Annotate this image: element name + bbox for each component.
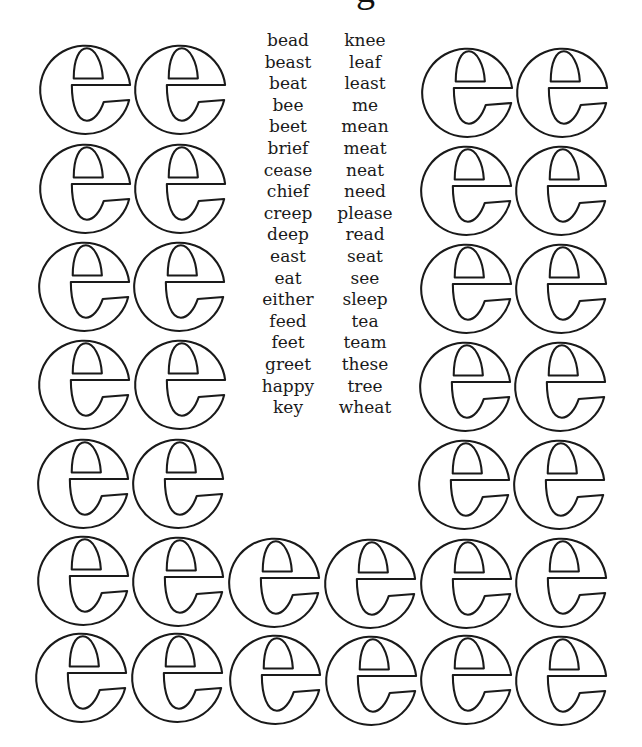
outline-letter-e: [36, 333, 132, 427]
outline-letter-e: [227, 628, 323, 722]
outline-letter-e: [513, 237, 609, 331]
outline-letter-e: [35, 432, 131, 526]
outline-letter-e: [37, 38, 133, 132]
outline-letter-e: [418, 139, 514, 233]
word-list-item: need: [320, 181, 410, 203]
word-list-item: sleep: [320, 289, 410, 311]
word-list-item: team: [320, 332, 410, 354]
worksheet-page: g bead beast beat bee beet brief cease c…: [0, 0, 642, 747]
word-list-item: see: [320, 268, 410, 290]
outline-letter-e: [36, 235, 132, 329]
cropped-title-fragment: g: [356, 0, 375, 4]
word-list-item: these: [320, 354, 410, 376]
outline-letter-e: [511, 433, 607, 527]
word-list-item: wheat: [320, 397, 410, 419]
outline-letter-e: [129, 626, 225, 720]
outline-letter-e: [513, 139, 609, 233]
outline-letter-e: [513, 629, 609, 723]
word-list-item: neat: [320, 160, 410, 182]
outline-letter-e: [37, 137, 133, 231]
word-list-item: read: [320, 224, 410, 246]
word-list-item: least: [320, 73, 410, 95]
outline-letter-e: [418, 237, 514, 331]
outline-letter-e: [419, 41, 515, 135]
outline-letter-e: [35, 529, 131, 623]
word-list-item: me: [320, 95, 410, 117]
outline-letter-e: [33, 626, 129, 720]
outline-letter-e: [418, 628, 514, 722]
outline-letter-e: [512, 335, 608, 429]
word-list-item: tree: [320, 376, 410, 398]
outline-letter-e: [417, 335, 513, 429]
outline-letter-e: [130, 432, 226, 526]
outline-letter-e: [513, 531, 609, 625]
outline-letter-e: [514, 41, 610, 135]
outline-letter-e: [132, 333, 228, 427]
outline-letter-e: [132, 137, 228, 231]
word-list-item: please: [320, 203, 410, 225]
outline-letter-e: [132, 38, 228, 132]
outline-letter-e: [418, 532, 514, 626]
word-list-item: meat: [320, 138, 410, 160]
outline-letter-e: [416, 433, 512, 527]
outline-letter-e: [130, 530, 226, 624]
word-list-right-column: knee leaf least me mean meat neat need p…: [320, 30, 410, 419]
word-list-item: mean: [320, 116, 410, 138]
word-list-item: seat: [320, 246, 410, 268]
outline-letter-e: [226, 531, 322, 625]
outline-letter-e: [322, 532, 418, 626]
outline-letter-e: [323, 629, 419, 723]
outline-letter-e: [131, 235, 227, 329]
word-list-item: tea: [320, 311, 410, 333]
word-list-item: knee: [320, 30, 410, 52]
word-list-item: leaf: [320, 52, 410, 74]
